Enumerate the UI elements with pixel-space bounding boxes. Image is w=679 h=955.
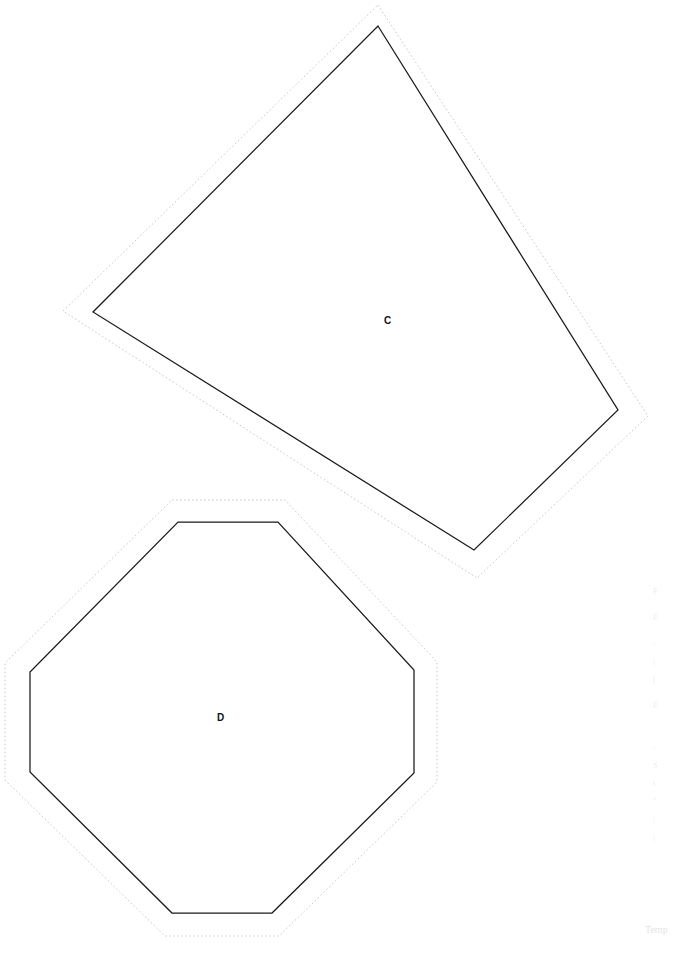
margin-note: t [653, 780, 679, 788]
margin-note: | [653, 658, 679, 666]
margin-note: S [653, 762, 679, 770]
shape-label-c: C [384, 316, 391, 326]
margin-note: - [653, 744, 679, 752]
shape-label-d: D [217, 713, 224, 723]
margin-note: F [653, 614, 679, 622]
margin-note: F [653, 588, 679, 596]
margin-note: " [653, 798, 679, 806]
margin-note: ( [653, 676, 679, 684]
template-page: C D F F - | ( F - S t " | | Temp [0, 0, 679, 955]
margin-note: F [653, 702, 679, 710]
margin-notes: F F - | ( F - S t " | | [653, 588, 679, 852]
margin-note: - [653, 640, 679, 648]
shape-c-solid-outline [93, 26, 618, 550]
shapes-canvas [0, 0, 679, 955]
margin-note: | [653, 834, 679, 842]
shape-c-dotted-outline [63, 5, 648, 578]
footer-note: Temp [645, 925, 679, 935]
margin-note: | [653, 816, 679, 824]
